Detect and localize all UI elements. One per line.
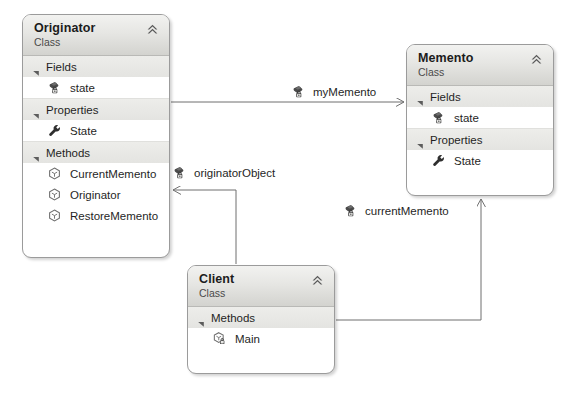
member-row[interactable]: RestoreMemento	[23, 205, 169, 226]
member-label: State	[70, 125, 97, 137]
property-wrench-icon	[47, 123, 62, 138]
class-name-client: Client	[199, 272, 325, 286]
class-header-memento[interactable]: MementoClass	[407, 45, 553, 86]
section-label: Properties	[430, 134, 482, 146]
field-private-icon	[431, 110, 446, 125]
diagram-canvas: OriginatorClassFieldsstatePropertiesStat…	[0, 0, 571, 395]
triangle-expanded-icon[interactable]	[197, 314, 205, 322]
association-label-text: originatorObject	[194, 167, 275, 179]
class-box-originator[interactable]: OriginatorClassFieldsstatePropertiesStat…	[22, 14, 170, 258]
method-cube-icon	[47, 208, 62, 223]
member-label: State	[454, 155, 481, 167]
class-header-client[interactable]: ClientClass	[188, 266, 334, 307]
field-private-icon	[172, 165, 187, 180]
section-label: Methods	[46, 147, 90, 159]
section-client-methods[interactable]: Methods	[188, 307, 334, 328]
section-originator-properties[interactable]: Properties	[23, 98, 169, 120]
triangle-expanded-icon[interactable]	[32, 63, 40, 71]
member-row[interactable]: state	[23, 77, 169, 98]
triangle-expanded-icon[interactable]	[416, 93, 424, 101]
field-private-icon	[47, 80, 62, 95]
method-cube-icon	[47, 187, 62, 202]
member-row[interactable]: CurrentMemento	[23, 163, 169, 184]
method-private-cube-icon	[212, 331, 227, 346]
section-label: Fields	[430, 91, 461, 103]
class-body-client: MethodsMain	[188, 307, 334, 349]
chevron-double-up-icon[interactable]	[529, 52, 545, 66]
member-row[interactable]: Originator	[23, 184, 169, 205]
member-label: CurrentMemento	[70, 168, 156, 180]
member-label: state	[454, 112, 479, 124]
association-line-originator-object	[173, 190, 236, 264]
section-memento-properties[interactable]: Properties	[407, 128, 553, 150]
chevron-double-up-icon[interactable]	[310, 273, 326, 287]
association-label-text: currentMemento	[365, 205, 449, 217]
section-label: Methods	[211, 312, 255, 324]
member-label: Originator	[70, 189, 121, 201]
section-memento-fields[interactable]: Fields	[407, 86, 553, 107]
property-wrench-icon	[431, 153, 446, 168]
member-row[interactable]: state	[407, 107, 553, 128]
field-private-icon	[291, 84, 306, 99]
method-cube-icon	[47, 166, 62, 181]
section-originator-methods[interactable]: Methods	[23, 141, 169, 163]
member-row[interactable]: State	[23, 120, 169, 141]
class-body-memento: FieldsstatePropertiesState	[407, 86, 553, 171]
class-box-memento[interactable]: MementoClassFieldsstatePropertiesState	[406, 44, 554, 196]
class-body-originator: FieldsstatePropertiesStateMethodsCurrent…	[23, 56, 169, 226]
triangle-expanded-icon[interactable]	[32, 106, 40, 114]
triangle-expanded-icon[interactable]	[32, 149, 40, 157]
section-label: Properties	[46, 104, 98, 116]
association-label-originator-object[interactable]: originatorObject	[172, 165, 275, 180]
triangle-expanded-icon[interactable]	[416, 136, 424, 144]
class-name-originator: Originator	[34, 21, 160, 35]
member-row[interactable]: Main	[188, 328, 334, 349]
section-label: Fields	[46, 61, 77, 73]
member-row[interactable]: State	[407, 150, 553, 171]
class-name-memento: Memento	[418, 51, 544, 65]
class-stereotype-memento: Class	[418, 66, 544, 79]
member-label: state	[70, 82, 95, 94]
association-label-text: myMemento	[313, 86, 376, 98]
association-label-current-memento[interactable]: currentMemento	[343, 203, 449, 218]
class-stereotype-originator: Class	[34, 36, 160, 49]
member-label: Main	[235, 333, 260, 345]
member-label: RestoreMemento	[70, 210, 158, 222]
chevron-double-up-icon[interactable]	[145, 22, 161, 36]
class-stereotype-client: Class	[199, 287, 325, 300]
class-box-client[interactable]: ClientClassMethodsMain	[187, 265, 335, 374]
class-header-originator[interactable]: OriginatorClass	[23, 15, 169, 56]
section-originator-fields[interactable]: Fields	[23, 56, 169, 77]
field-private-icon	[343, 203, 358, 218]
association-label-my-memento[interactable]: myMemento	[291, 84, 376, 99]
